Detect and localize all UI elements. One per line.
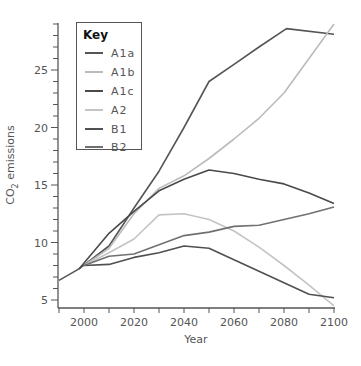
- legend-item-a2: A2: [85, 101, 128, 119]
- x-axis-title: Year: [183, 333, 208, 346]
- legend-swatch-b1: [85, 128, 103, 130]
- x-tick-label: 2000: [70, 316, 98, 329]
- y-axis-title: CO2 emissions: [4, 125, 20, 205]
- x-tick-label: 2020: [120, 316, 148, 329]
- series-line-b2: [84, 207, 334, 266]
- legend-item-b2: B2: [85, 138, 128, 156]
- y-tick-label: 15: [34, 179, 48, 192]
- legend-label: A1c: [111, 85, 135, 98]
- legend-label: A2: [111, 104, 128, 117]
- y-ticks: 510152025: [34, 24, 58, 307]
- y-axis-title-rest: emissions: [4, 125, 17, 183]
- series-line-b1: [84, 246, 334, 298]
- y-tick-label: 20: [34, 122, 48, 135]
- legend-swatch-b2: [85, 146, 103, 148]
- legend-item-a1c: A1c: [85, 82, 135, 100]
- y-tick-label: 10: [34, 237, 48, 250]
- legend-label: B1: [111, 123, 128, 136]
- legend-label: B2: [111, 141, 128, 154]
- y-axis-title-co: CO: [4, 188, 17, 205]
- legend-item-a1b: A1b: [85, 63, 136, 81]
- x-ticks: 200020202040206020802100: [59, 308, 348, 329]
- x-tick-label: 2080: [270, 316, 298, 329]
- x-tick-label: 2100: [320, 316, 348, 329]
- x-tick-label: 2060: [220, 316, 248, 329]
- y-tick-label: 25: [34, 64, 48, 77]
- legend: Key A1a A1b A1c A2 B1 B2: [76, 22, 142, 150]
- y-tick-label: 5: [41, 294, 48, 307]
- legend-swatch-a1c: [85, 90, 103, 92]
- legend-label: A1a: [111, 47, 135, 60]
- legend-item-a1a: A1a: [85, 44, 135, 62]
- legend-swatch-a2: [85, 109, 103, 111]
- legend-title: Key: [83, 28, 108, 42]
- x-tick-label: 2040: [170, 316, 198, 329]
- legend-item-b1: B1: [85, 120, 128, 138]
- line-chart: 510152025 200020202040206020802100 Year …: [0, 0, 361, 366]
- legend-swatch-a1a: [85, 52, 103, 54]
- legend-label: A1b: [111, 66, 136, 79]
- legend-swatch-a1b: [85, 71, 103, 73]
